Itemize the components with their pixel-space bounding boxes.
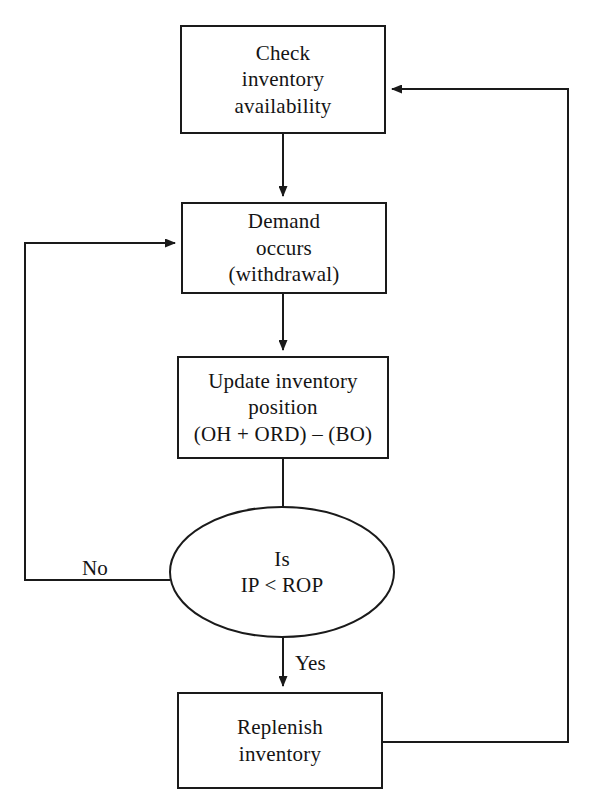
node-demand-occurs (182, 203, 386, 293)
node-check-inventory-availability (181, 26, 385, 133)
node-replenish-inventory (178, 693, 382, 788)
edge-decision-no-to-demand (25, 243, 175, 580)
edge-label-yes: Yes (295, 653, 326, 674)
node-update-inventory-position (178, 357, 388, 458)
flowchart-canvas: Check inventory availability Demand occu… (0, 0, 591, 810)
edge-replenish-to-check (382, 89, 568, 742)
node-is-ip-less-than-rop (170, 507, 394, 637)
flowchart-svg (0, 0, 591, 810)
edge-label-no: No (82, 558, 108, 579)
